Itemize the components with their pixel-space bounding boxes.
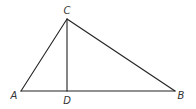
label-c: C [64,5,71,16]
diagram-canvas: C A D B [0,0,196,109]
segment-cb [67,19,175,91]
triangle-diagram: C A D B [0,0,196,109]
segments-group [21,19,175,91]
label-a: A [10,90,18,101]
segment-ac [21,19,67,91]
label-b: B [178,90,185,101]
label-d: D [63,95,71,106]
